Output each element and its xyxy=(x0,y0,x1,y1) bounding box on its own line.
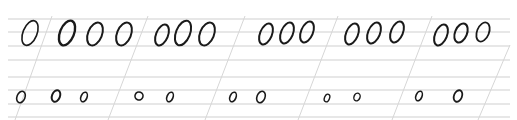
large-ovals-oval-6 xyxy=(196,20,218,47)
small-ovals-oval-4 xyxy=(165,91,174,103)
large-ovals-oval-11 xyxy=(364,21,383,46)
small-ovals-oval-1 xyxy=(50,89,62,103)
large-ovals-oval-5 xyxy=(172,18,195,47)
handwriting-practice-sheet xyxy=(0,0,517,120)
small-ovals-oval-9 xyxy=(414,90,423,102)
small-ovals-oval-7 xyxy=(323,93,331,102)
handwritten-ovals xyxy=(15,18,492,104)
large-ovals-oval-0 xyxy=(19,18,42,47)
large-ovals-oval-10 xyxy=(342,22,361,47)
small-ovals-oval-2 xyxy=(79,91,88,103)
small-ovals-oval-3 xyxy=(134,91,144,101)
small-ovals-oval-0 xyxy=(15,90,27,104)
large-ovals-oval-1 xyxy=(56,18,79,47)
large-ovals-oval-14 xyxy=(452,21,471,44)
large-ovals-oval-2 xyxy=(84,20,106,47)
large-ovals-oval-7 xyxy=(256,22,275,47)
small-ovals-oval-6 xyxy=(255,90,267,104)
small-ovals-oval-5 xyxy=(228,91,237,103)
small-ovals-oval-8 xyxy=(353,92,362,102)
large-ovals-oval-4 xyxy=(152,23,171,48)
slant-line-5 xyxy=(478,45,510,120)
small-ovals-oval-10 xyxy=(452,89,464,103)
large-ovals-oval-3 xyxy=(113,20,135,47)
large-ovals-oval-13 xyxy=(431,23,450,48)
large-ovals-oval-8 xyxy=(277,21,296,46)
